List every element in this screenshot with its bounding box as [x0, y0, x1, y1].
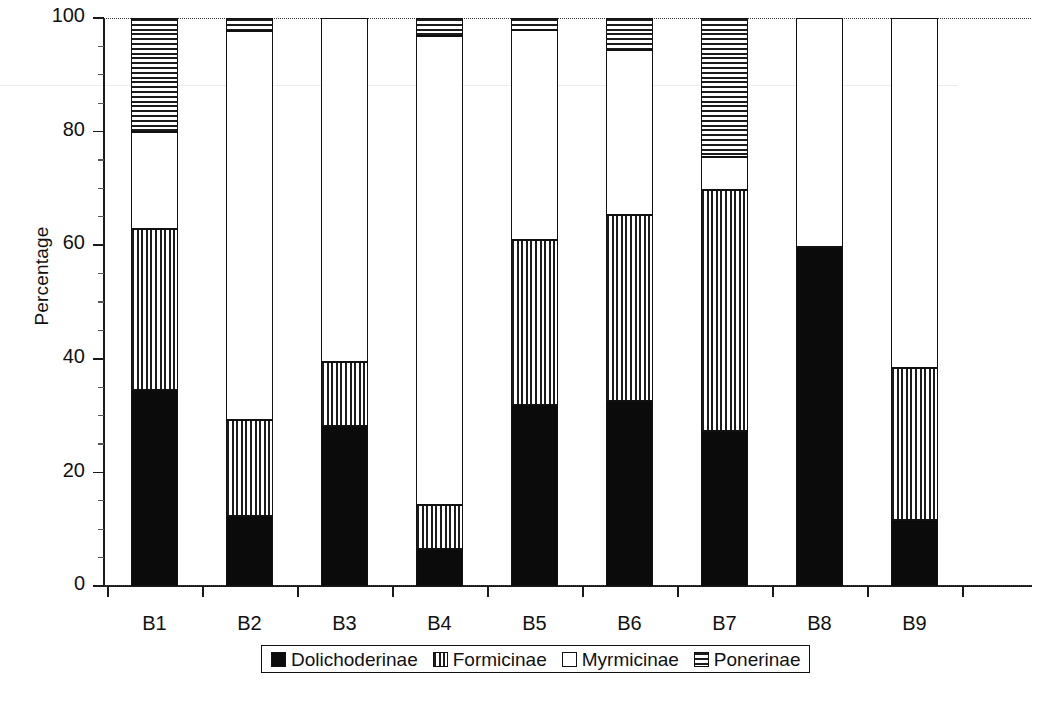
- chart-figure: Percentage 020406080100 B1B2B3B4B5B6B7B8…: [0, 0, 1062, 704]
- bar-segment-b5-formicinae: [511, 240, 558, 406]
- y-minor-tick: [98, 103, 104, 104]
- y-minor-tick: [98, 273, 104, 274]
- plot-area: 020406080100 B1B2B3B4B5B6B7B8B9: [104, 18, 1031, 586]
- x-tick: [582, 586, 584, 597]
- bar-segment-b7-myrmicinae: [701, 157, 748, 190]
- x-tick: [202, 586, 204, 597]
- bar-b4: [416, 18, 463, 586]
- legend-swatch-dolichoderinae-icon: [271, 652, 286, 667]
- y-minor-tick: [98, 216, 104, 217]
- bar-segment-b4-myrmicinae: [416, 36, 463, 505]
- x-tick-label-b6: B6: [585, 612, 675, 635]
- x-tick-label-b9: B9: [870, 612, 960, 635]
- y-tick-label-20: 20: [63, 459, 85, 482]
- y-tick-label-80: 80: [63, 118, 85, 141]
- bar-segment-b3-myrmicinae: [321, 18, 368, 362]
- y-minor-tick: [98, 415, 104, 416]
- y-tick-20: 20: [93, 472, 104, 474]
- y-minor-tick: [98, 529, 104, 530]
- x-tick-label-b8: B8: [775, 612, 865, 635]
- bar-segment-b9-formicinae: [891, 368, 938, 520]
- legend-swatch-myrmicinae-icon: [562, 652, 577, 667]
- bar-segment-b4-dolichoderinae: [416, 549, 463, 586]
- chart-legend: DolichoderinaeFormicinaeMyrmicinaePoneri…: [261, 645, 810, 673]
- bar-segment-b2-dolichoderinae: [226, 516, 273, 586]
- bar-segment-b3-dolichoderinae: [321, 426, 368, 586]
- bar-segment-b6-ponerinae: [606, 18, 653, 50]
- x-tick-label-b4: B4: [395, 612, 485, 635]
- bar-segment-b4-formicinae: [416, 505, 463, 549]
- x-tick: [677, 586, 679, 597]
- legend-label-myrmicinae: Myrmicinae: [582, 650, 679, 669]
- bar-segment-b9-dolichoderinae: [891, 520, 938, 586]
- y-axis-title: Percentage: [31, 196, 53, 356]
- bar-segment-b8-dolichoderinae: [796, 247, 843, 586]
- bar-segment-b1-ponerinae: [131, 18, 178, 132]
- bar-segment-b7-ponerinae: [701, 18, 748, 157]
- legend-item-dolichoderinae[interactable]: Dolichoderinae: [271, 650, 418, 669]
- bar-b6: [606, 18, 653, 586]
- bar-b1: [131, 18, 178, 586]
- x-tick: [392, 586, 394, 597]
- bar-segment-b1-myrmicinae: [131, 132, 178, 230]
- legend-item-formicinae[interactable]: Formicinae: [433, 650, 547, 669]
- y-minor-tick: [98, 159, 104, 160]
- x-tick-label-b1: B1: [110, 612, 200, 635]
- bar-segment-b1-dolichoderinae: [131, 390, 178, 586]
- y-minor-tick: [98, 301, 104, 302]
- legend-label-dolichoderinae: Dolichoderinae: [291, 650, 418, 669]
- y-tick-100: 100: [93, 17, 104, 19]
- bar-segment-b6-myrmicinae: [606, 50, 653, 215]
- x-tick-label-b3: B3: [300, 612, 390, 635]
- bar-segment-b5-ponerinae: [511, 18, 558, 30]
- x-tick: [772, 586, 774, 597]
- y-tick-0: 0: [93, 585, 104, 587]
- y-tick-40: 40: [93, 358, 104, 360]
- y-minor-tick: [98, 188, 104, 189]
- x-tick: [867, 586, 869, 597]
- bar-segment-b6-dolichoderinae: [606, 401, 653, 586]
- x-tick-label-b5: B5: [490, 612, 580, 635]
- x-tick: [487, 586, 489, 597]
- x-tick: [107, 586, 109, 597]
- bar-b8: [796, 18, 843, 586]
- bar-segment-b1-formicinae: [131, 229, 178, 390]
- bar-b5: [511, 18, 558, 586]
- bar-segment-b5-myrmicinae: [511, 30, 558, 239]
- y-minor-tick: [98, 443, 104, 444]
- y-tick-label-60: 60: [63, 231, 85, 254]
- bar-segment-b8-myrmicinae: [796, 18, 843, 247]
- bar-b7: [701, 18, 748, 586]
- x-tick-label-b7: B7: [680, 612, 770, 635]
- legend-swatch-ponerinae-icon: [694, 652, 709, 667]
- y-tick-60: 60: [93, 244, 104, 246]
- bar-segment-b9-myrmicinae: [891, 18, 938, 368]
- x-tick-label-b2: B2: [205, 612, 295, 635]
- bar-segment-b2-ponerinae: [226, 18, 273, 31]
- y-minor-tick: [98, 387, 104, 388]
- y-minor-tick: [98, 74, 104, 75]
- y-minor-tick: [98, 330, 104, 331]
- bar-segment-b2-myrmicinae: [226, 31, 273, 420]
- legend-item-myrmicinae[interactable]: Myrmicinae: [562, 650, 679, 669]
- y-minor-tick: [98, 500, 104, 501]
- y-tick-label-0: 0: [74, 572, 85, 595]
- bar-segment-b2-formicinae: [226, 420, 273, 516]
- bar-segment-b7-dolichoderinae: [701, 431, 748, 586]
- bar-segment-b6-formicinae: [606, 215, 653, 401]
- legend-swatch-formicinae-icon: [433, 652, 448, 667]
- bar-b9: [891, 18, 938, 586]
- bar-segment-b4-ponerinae: [416, 18, 463, 36]
- legend-item-ponerinae[interactable]: Ponerinae: [694, 650, 801, 669]
- y-tick-80: 80: [93, 131, 104, 133]
- bar-segment-b5-dolichoderinae: [511, 405, 558, 586]
- y-tick-label-40: 40: [63, 345, 85, 368]
- legend-label-ponerinae: Ponerinae: [714, 650, 801, 669]
- bar-b3: [321, 18, 368, 586]
- bar-segment-b7-formicinae: [701, 190, 748, 431]
- y-minor-tick: [98, 557, 104, 558]
- bar-b2: [226, 18, 273, 586]
- legend-label-formicinae: Formicinae: [453, 650, 547, 669]
- y-tick-label-100: 100: [52, 4, 85, 27]
- bar-segment-b3-formicinae: [321, 362, 368, 427]
